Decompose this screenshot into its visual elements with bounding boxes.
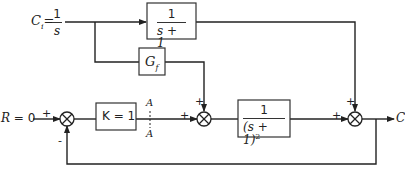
cut-label-bottom: A — [146, 129, 153, 139]
feedforward-label: Gf — [145, 55, 158, 72]
sum3-left-sign: + — [332, 110, 341, 121]
disturbance-block-tf: 1 s + 1 — [157, 8, 186, 49]
process-block-tf: 1 (s + 1)2 — [243, 104, 285, 146]
cut-label-top: A — [146, 98, 153, 108]
sum2-top-sign: + — [195, 96, 204, 107]
disturbance-input-label: Ci= — [31, 14, 54, 31]
disturbance-input-fraction: 1 s — [52, 8, 62, 37]
sum1-feedback-sign: - — [58, 135, 62, 146]
sum2-left-sign: + — [180, 110, 189, 121]
sum1-input-sign: + — [42, 108, 51, 119]
reference-label: RR = 0 = 0 — [1, 112, 35, 124]
sum3-top-sign: + — [346, 96, 355, 107]
output-label: C — [396, 112, 405, 124]
controller-label: K = 1 — [102, 110, 135, 122]
